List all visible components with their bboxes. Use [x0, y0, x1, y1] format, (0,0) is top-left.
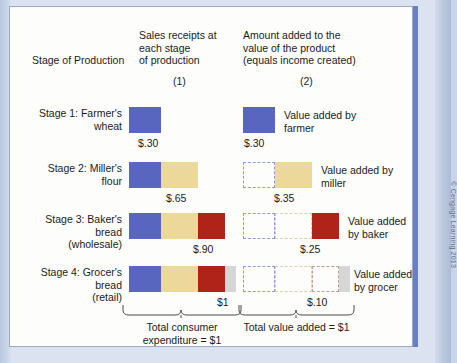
row-1-label-line1: Stage 1: Farmer's [10, 107, 122, 120]
bracket-consumer-expenditure [122, 304, 242, 318]
row-4-label-line1: Stage 4: Grocer's [10, 266, 122, 279]
segment-baker-dashed [312, 266, 339, 292]
header-column1-line1: Sales receipts at [139, 29, 217, 42]
row-4-added-bar [243, 266, 350, 292]
row-2-label-line2: flour [10, 175, 122, 188]
row-1-legend-line1: Value added by [284, 109, 356, 122]
row-4-label-line2: bread [10, 279, 122, 292]
segment-farmer-solid [129, 266, 161, 292]
row-3-label-line2: bread [10, 226, 122, 239]
segment-baker-added-solid [312, 213, 339, 239]
row-2-receipts-amount: $.65 [166, 192, 186, 204]
segment-farmer-dashed [243, 213, 275, 239]
row-4-label-line3: (retail) [10, 291, 122, 304]
segment-baker-solid [198, 266, 225, 292]
segment-grocer-added-solid [339, 266, 350, 292]
segment-miller-solid [161, 266, 198, 292]
row-3-receipts-amount: $.90 [193, 243, 213, 255]
segment-miller-dashed [275, 266, 312, 292]
row-3-legend-line1: Value added [348, 215, 406, 228]
row-3-added-bar [243, 213, 350, 239]
row-3-label-line3: (wholesale) [10, 238, 122, 251]
header-column2-number: (2) [300, 75, 313, 88]
header-column2-line1: Amount added to the [243, 29, 341, 42]
header-stage-of-production: Stage of Production [32, 54, 124, 67]
row-1-label-line2: wheat [10, 120, 122, 133]
segment-farmer-dashed [243, 266, 275, 292]
header-column2-line2: value of the product [243, 42, 335, 55]
segment-farmer-solid [129, 213, 161, 239]
header-column2-line3: (equals income created) [243, 54, 356, 67]
row-1-receipts-amount: $.30 [138, 137, 158, 149]
segment-miller-solid [161, 162, 198, 188]
row-2-legend-line1: Value added by [321, 164, 393, 177]
row-4-receipts-bar [129, 266, 236, 292]
row-1-legend-line2: farmer [284, 122, 314, 135]
row-3-added-amount: $.25 [300, 243, 320, 255]
segment-grocer-solid [225, 266, 236, 292]
diagram-panel: Stage of Production Sales receipts at ea… [9, 6, 413, 347]
total-value-added: Total value added = $1 [238, 321, 355, 334]
figure-right-gradient-band [435, 0, 451, 363]
row-3-legend-line2: by baker [348, 228, 388, 241]
header-column1-line2: each stage [139, 42, 190, 55]
row-3-receipts-bar [129, 213, 236, 239]
segment-miller-added-solid [275, 162, 312, 188]
row-4-legend-line1: Value added [354, 268, 412, 281]
segment-farmer-solid [129, 162, 161, 188]
row-2-label-line1: Stage 2: Miller's [10, 162, 122, 175]
total-consumer-expenditure-line2: expenditure = $1 [122, 334, 242, 347]
row-4-legend-line2: by grocer [354, 281, 398, 294]
total-consumer-expenditure-line1: Total consumer [122, 321, 242, 334]
row-3-label-line1: Stage 3: Baker's [10, 213, 122, 226]
header-column1-line3: of production [139, 54, 200, 67]
segment-farmer-dashed [243, 162, 275, 188]
bracket-total-value-added [238, 304, 355, 318]
row-1-added-amount: $.30 [244, 137, 264, 149]
copyright-notice: © Cengage Learning 2013 [450, 181, 457, 268]
header-column1-number: (1) [173, 75, 186, 88]
row-2-added-amount: $.35 [274, 192, 294, 204]
segment-farmer-added-solid [243, 107, 275, 133]
segment-baker-solid [198, 213, 225, 239]
row-1-receipts-bar [129, 107, 236, 133]
segment-miller-solid [161, 213, 198, 239]
row-2-legend-line2: miller [321, 177, 346, 190]
segment-miller-dashed [275, 213, 312, 239]
row-2-receipts-bar [129, 162, 236, 188]
segment-farmer-solid [129, 107, 161, 133]
